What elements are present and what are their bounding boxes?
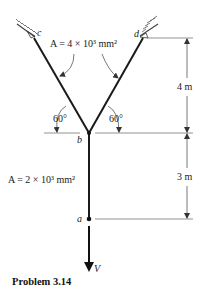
truss-diagram: c d b a V A = 4 × 10³ mm² A = 2 × 10³ mm… <box>0 0 209 295</box>
angle-label-left: 60° <box>53 113 67 124</box>
node-label-c: c <box>37 27 42 38</box>
joint-b <box>87 131 91 135</box>
problem-caption: Problem 3.14 <box>12 276 72 287</box>
area-leader-right <box>102 54 118 78</box>
node-label-b: b <box>77 134 82 145</box>
dimension-label-upper: 4 m <box>177 81 193 92</box>
joint-a <box>87 217 92 222</box>
dimension-label-lower: 3 m <box>177 171 193 182</box>
support-d-icon <box>140 16 158 38</box>
node-label-d: d <box>134 28 140 39</box>
load-label-v: V <box>94 263 102 274</box>
angle-label-right: 60° <box>109 113 123 124</box>
area-label-upper: A = 4 × 10³ mm² <box>50 38 117 49</box>
area-label-lower: A = 2 × 10³ mm² <box>8 174 75 185</box>
node-label-a: a <box>77 213 82 224</box>
area-leader-left <box>60 54 74 76</box>
support-c-icon <box>16 19 37 38</box>
